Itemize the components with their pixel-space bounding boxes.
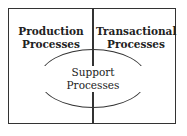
transactional-processes-label: Transactional Processes [96, 25, 176, 51]
label-line: Processes [39, 79, 147, 92]
production-processes-label: Production Processes [14, 25, 88, 51]
label-line: Support [39, 66, 147, 79]
support-processes-label: Support Processes [39, 66, 147, 92]
label-line: Processes [14, 38, 88, 51]
label-line: Processes [96, 38, 176, 51]
label-line: Production [14, 25, 88, 38]
label-line: Transactional [96, 25, 176, 38]
